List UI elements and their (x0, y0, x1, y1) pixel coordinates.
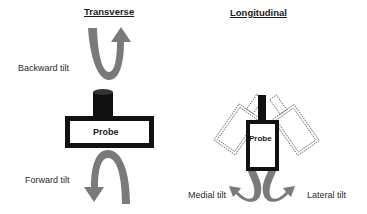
lateral-tilt-arrow-icon (263, 171, 295, 202)
lateral-tilt-label: Lateral tilt (307, 190, 346, 200)
forward-tilt-label: Forward tilt (25, 175, 70, 185)
transverse-title: Transverse (84, 6, 134, 17)
transverse-probe-label: Probe (93, 127, 119, 137)
backward-tilt-label: Backward tilt (18, 63, 69, 73)
longitudinal-probe-icon (248, 95, 277, 169)
forward-tilt-arrow-icon (84, 150, 130, 204)
transverse-probe-icon (68, 89, 152, 146)
backward-tilt-arrow-icon (88, 27, 131, 80)
longitudinal-probe-label: Probe (249, 134, 272, 143)
medial-tilt-arrow-icon (229, 171, 261, 202)
medial-tilt-label: Medial tilt (188, 190, 226, 200)
longitudinal-title: Longitudinal (230, 7, 287, 18)
